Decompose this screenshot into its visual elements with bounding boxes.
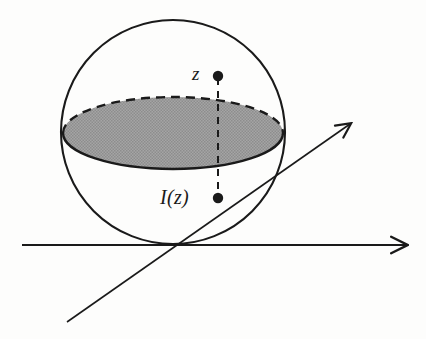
- label-point-iz: I(z): [160, 187, 189, 207]
- label-point-z: z: [192, 64, 199, 83]
- point-iz-dot: [213, 193, 223, 203]
- figure-canvas: z I(z): [0, 0, 426, 339]
- sphere-diagram-svg: [0, 0, 426, 339]
- point-z-dot: [213, 71, 223, 81]
